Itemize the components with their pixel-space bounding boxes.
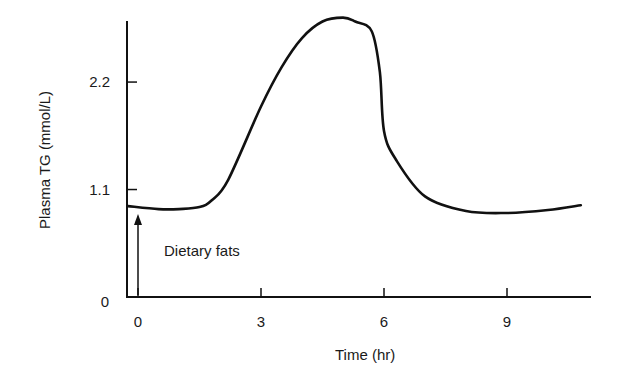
y-tick-label: 2.2 — [89, 73, 110, 90]
x-axis-title: Time (hr) — [335, 346, 395, 363]
x-tick-label: 3 — [257, 313, 265, 330]
plasma-tg-line — [128, 18, 581, 214]
dietary-fats-annotation: Dietary fats — [134, 214, 240, 295]
y-tick-label: 1.1 — [89, 181, 110, 198]
x-ticks: 0369 — [134, 288, 511, 330]
y-axis-title: Plasma TG (mmol/L) — [36, 91, 53, 229]
annotation-label: Dietary fats — [164, 242, 240, 259]
x-tick-label: 9 — [503, 313, 511, 330]
chart: 0369 01.12.2 Dietary fats Time (hr) Plas… — [0, 0, 618, 384]
x-tick-label: 6 — [380, 313, 388, 330]
y-tick-label: 0 — [101, 293, 109, 310]
x-tick-label: 0 — [134, 313, 142, 330]
y-ticks: 01.12.2 — [89, 73, 137, 310]
arrow-head-icon — [134, 214, 142, 225]
